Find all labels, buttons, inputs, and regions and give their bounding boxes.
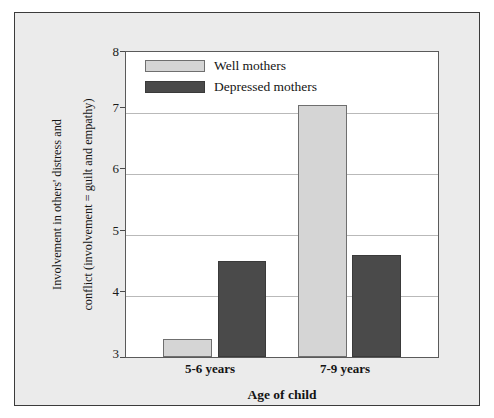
y-axis-title: Involvement in others' distress and conf… — [52, 51, 94, 358]
x-tick-label-5-6-years: 5-6 years — [165, 362, 255, 375]
legend-item-well-mothers: Well mothers — [145, 57, 317, 74]
chart-panel: Involvement in others' distress and conf… — [14, 12, 480, 406]
x-tick-label-7-9-years: 7-9 years — [300, 362, 390, 375]
legend-item-depressed-mothers: Depressed mothers — [145, 78, 317, 95]
y-tick-label-4: 4 — [99, 285, 119, 298]
gridline-5 — [126, 235, 438, 236]
bar-well-mothers-7-9-years — [298, 105, 347, 357]
y-tick-label-5: 5 — [99, 224, 119, 237]
y-tick-label-7: 7 — [99, 101, 119, 114]
legend-label-depressed-mothers: Depressed mothers — [214, 79, 317, 95]
bar-chart-figure: Involvement in others' distress and conf… — [0, 0, 494, 418]
bar-depressed-mothers-7-9-years — [352, 255, 401, 357]
legend-label-well-mothers: Well mothers — [214, 58, 286, 74]
bar-well-mothers-5-6-years — [163, 339, 212, 357]
legend-swatch-well-mothers — [145, 60, 205, 72]
y-tick-label-3: 3 — [99, 347, 119, 360]
y-axis-title-line1: Involvement in others' distress and — [50, 51, 65, 358]
x-axis-title: Age of child — [125, 387, 439, 403]
y-tick-label-8: 8 — [99, 45, 119, 58]
legend-swatch-depressed-mothers — [145, 81, 205, 93]
chart-legend: Well mothers Depressed mothers — [145, 57, 317, 99]
gridline-6 — [126, 174, 438, 175]
gridline-7 — [126, 113, 438, 114]
y-tick-label-6: 6 — [99, 162, 119, 175]
y-axis-title-line2: conflict (involvement = guilt and empath… — [81, 51, 96, 358]
bar-depressed-mothers-5-6-years — [218, 261, 266, 357]
